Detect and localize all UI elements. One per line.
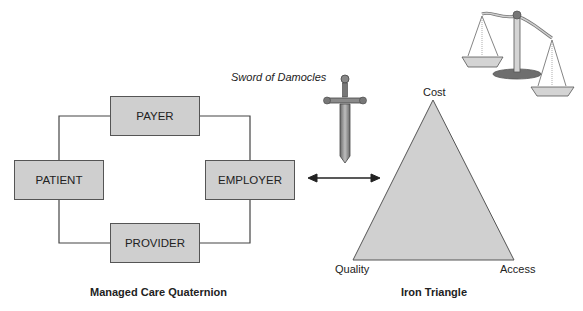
- diagram-canvas: [0, 0, 583, 311]
- double-arrow-icon: [308, 174, 380, 182]
- employer-box: EMPLOYER: [205, 160, 295, 200]
- vertex-cost: Cost: [423, 86, 446, 98]
- sword-label: Sword of Damocles: [231, 71, 326, 83]
- payer-box: PAYER: [110, 96, 200, 136]
- sword-icon: [324, 75, 367, 163]
- provider-box: PROVIDER: [110, 223, 200, 263]
- payer-label: PAYER: [136, 110, 173, 122]
- iron-triangle-shape: [353, 100, 514, 260]
- provider-label: PROVIDER: [125, 237, 185, 249]
- patient-label: PATIENT: [36, 174, 83, 186]
- scales-icon: [462, 11, 574, 96]
- vertex-quality: Quality: [335, 263, 369, 275]
- patient-box: PATIENT: [14, 160, 104, 200]
- quaternion-title: Managed Care Quaternion: [90, 286, 227, 298]
- iron-triangle-title: Iron Triangle: [401, 286, 467, 298]
- vertex-access: Access: [500, 263, 535, 275]
- employer-label: EMPLOYER: [218, 174, 282, 186]
